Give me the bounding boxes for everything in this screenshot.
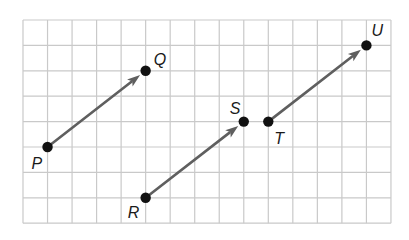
vector-pq bbox=[48, 75, 141, 147]
point-t bbox=[263, 116, 273, 126]
coordinate-grid-diagram: PQRSTU bbox=[0, 0, 409, 240]
point-s bbox=[239, 116, 249, 126]
vector-tu bbox=[268, 50, 361, 122]
vectors bbox=[48, 50, 361, 198]
vector-rs bbox=[146, 126, 239, 198]
point-u bbox=[361, 40, 371, 50]
point-label-p: P bbox=[32, 155, 43, 172]
vector-shaft bbox=[268, 56, 352, 121]
point-label-s: S bbox=[230, 100, 241, 117]
vector-shaft bbox=[146, 133, 230, 198]
point-label-r: R bbox=[128, 204, 140, 221]
point-r bbox=[140, 193, 150, 203]
point-label-t: T bbox=[274, 130, 285, 147]
point-q bbox=[140, 66, 150, 76]
point-label-u: U bbox=[371, 22, 383, 39]
vector-shaft bbox=[48, 82, 132, 147]
point-p bbox=[42, 142, 52, 152]
point-label-q: Q bbox=[154, 51, 166, 68]
